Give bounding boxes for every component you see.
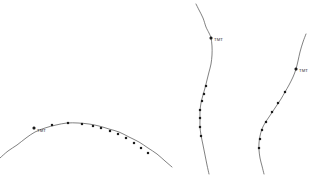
data-point-marker	[271, 111, 273, 113]
data-point-marker	[201, 100, 203, 102]
label-anchor-marker	[210, 37, 213, 40]
data-point-marker	[265, 121, 267, 123]
data-point-marker	[258, 147, 260, 149]
curve-label-1: TMT	[37, 128, 46, 133]
data-point-marker	[200, 135, 202, 137]
label-anchor-marker	[33, 127, 36, 130]
data-point-marker	[92, 125, 94, 127]
data-point-marker	[125, 137, 127, 139]
curve-middle-s	[196, 4, 212, 174]
data-point-marker	[284, 91, 286, 93]
data-point-marker	[199, 117, 201, 119]
markers-layer	[33, 37, 298, 155]
curve-label-3: TMT	[299, 68, 308, 73]
data-point-marker	[147, 152, 149, 154]
data-point-marker	[199, 109, 201, 111]
data-point-marker	[140, 147, 142, 149]
data-point-marker	[205, 85, 207, 87]
data-point-marker	[277, 102, 279, 104]
data-point-marker	[109, 130, 111, 132]
curve-label-2: TMT	[214, 37, 223, 42]
data-point-marker	[100, 127, 102, 129]
data-point-marker	[261, 129, 263, 131]
figure-canvas: TMTTMTTMT	[0, 0, 310, 176]
data-point-marker	[199, 126, 201, 128]
data-point-marker	[67, 122, 69, 124]
data-point-marker	[51, 124, 53, 126]
data-point-marker	[259, 138, 261, 140]
data-point-marker	[81, 123, 83, 125]
data-point-marker	[203, 93, 205, 95]
label-anchor-marker	[295, 68, 298, 71]
curve-left-arc	[0, 123, 172, 167]
data-point-marker	[133, 142, 135, 144]
data-point-marker	[117, 133, 119, 135]
curve-plot: TMTTMTTMT	[0, 0, 310, 176]
curve-right-s	[259, 34, 306, 174]
